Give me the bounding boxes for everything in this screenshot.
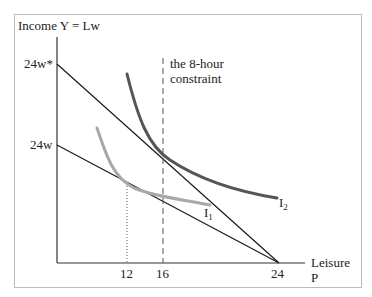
budget-line-high-wage — [57, 64, 279, 263]
y-tick-24w-star: 24w* — [24, 57, 53, 71]
x-tick-24: 24 — [271, 267, 284, 281]
i1-label-sub: 1 — [208, 212, 213, 222]
x-tick-12: 12 — [120, 267, 133, 281]
x-axis-label-line1: Leisure — [311, 256, 350, 270]
indifference-curve-i1 — [97, 128, 210, 205]
x-tick-16: 16 — [156, 267, 169, 281]
i2-label-sub: 2 — [283, 202, 288, 212]
constraint-label-line2: constraint — [170, 72, 221, 86]
i1-label: I1 — [204, 206, 213, 224]
x-axis-label-line2: P — [311, 271, 318, 285]
chart-canvas — [0, 0, 372, 297]
constraint-label-line1: the 8-hour — [170, 57, 224, 71]
i2-label: I2 — [279, 196, 288, 214]
y-axis-label: Income Y = Lw — [18, 19, 100, 33]
indifference-curve-i2 — [127, 74, 277, 198]
y-tick-24w: 24w — [30, 138, 52, 152]
